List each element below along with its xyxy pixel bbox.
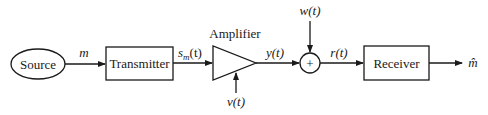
signal-y-label: y(t) <box>264 45 284 60</box>
source-block: Source <box>11 49 65 79</box>
signal-v-label: v(t) <box>227 94 245 109</box>
summer-block: + <box>300 53 320 73</box>
receiver-block: Receiver <box>364 46 429 80</box>
transmitter-label: Transmitter <box>109 56 170 71</box>
edge-noise-w-summer: w(t) <box>300 3 321 52</box>
edge-source-transmitter: m <box>65 45 105 64</box>
edge-transmitter-amplifier: sm(t) <box>173 45 212 63</box>
signal-m-label: m <box>79 45 88 60</box>
source-label: Source <box>20 57 56 72</box>
signal-w-label: w(t) <box>300 3 321 18</box>
amplifier-label: Amplifier <box>209 26 261 41</box>
summer-plus-label: + <box>306 56 313 71</box>
transmitter-block: Transmitter <box>106 47 173 80</box>
signal-r-label: r(t) <box>330 45 347 60</box>
signal-sm-label: sm(t) <box>178 45 202 62</box>
receiver-label: Receiver <box>373 56 420 71</box>
edge-receiver-output: m̂ <box>429 55 478 70</box>
signal-m-hat-label: m̂ <box>468 55 477 70</box>
edge-summer-receiver: r(t) <box>320 45 363 63</box>
communication-system-diagram: Source m Transmitter sm(t) Amplifier v(t… <box>0 0 488 115</box>
edge-noise-v-amplifier: v(t) <box>227 73 245 109</box>
amplifier-block: Amplifier <box>209 26 261 80</box>
edge-amplifier-summer: y(t) <box>256 45 299 63</box>
